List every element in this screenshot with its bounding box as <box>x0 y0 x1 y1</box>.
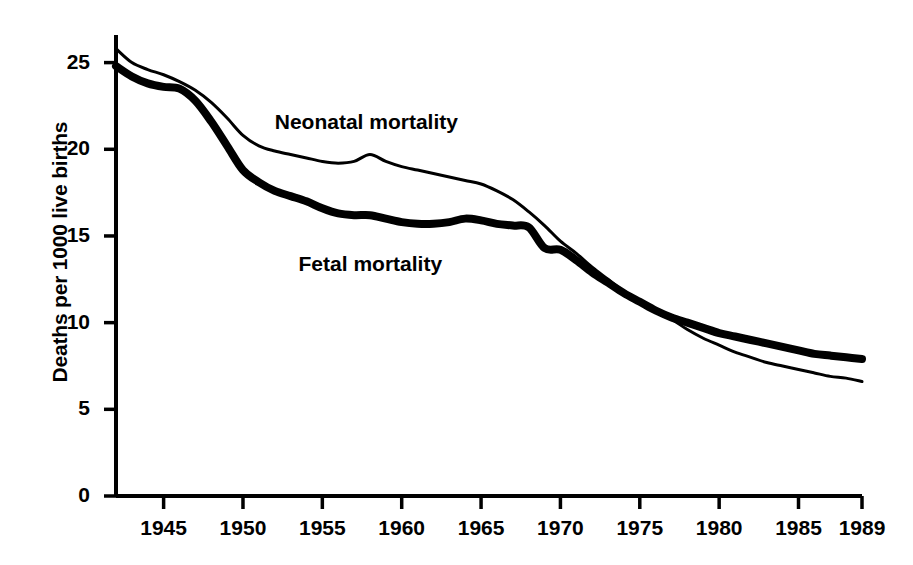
x-axis-tick-label: 1965 <box>441 516 521 540</box>
y-axis-tick-label: 10 <box>44 310 90 334</box>
data-series-group <box>116 49 862 382</box>
series-line-neonatal-mortality <box>116 49 862 382</box>
y-axis-tick-label: 15 <box>44 223 90 247</box>
y-axis-tick-label: 0 <box>44 483 90 507</box>
series-annotation-2: Fetal mortality <box>299 252 443 276</box>
x-axis-tick-label: 1970 <box>520 516 600 540</box>
y-axis-tick-label: 25 <box>44 50 90 74</box>
y-axis-tick-label: 20 <box>44 136 90 160</box>
y-axis-tick-label: 5 <box>44 396 90 420</box>
x-axis-tick-label: 1980 <box>679 516 759 540</box>
x-axis-tick-label: 1955 <box>282 516 362 540</box>
mortality-line-chart: Deaths per 1000 live births 0510152025 1… <box>0 0 913 565</box>
series-line-fetal-mortality <box>116 66 862 359</box>
axis-lines <box>116 35 862 496</box>
x-axis-tick-label: 1975 <box>600 516 680 540</box>
x-axis-tick-label: 1950 <box>203 516 283 540</box>
x-axis-tick-label: 1945 <box>124 516 204 540</box>
x-axis-tick-label: 1960 <box>362 516 442 540</box>
series-annotation-1: Neonatal mortality <box>275 110 458 134</box>
x-axis-tick-label: 1989 <box>822 516 902 540</box>
chart-plot-area <box>0 0 913 565</box>
